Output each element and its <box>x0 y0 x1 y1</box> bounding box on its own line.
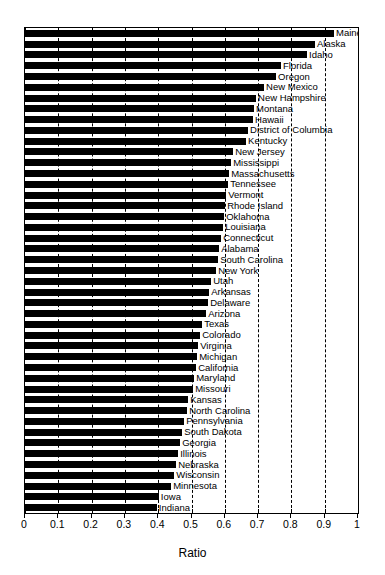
bar <box>25 332 200 339</box>
bar-label: Missouri <box>193 384 230 394</box>
bar <box>25 138 246 145</box>
bar-row: New York <box>25 267 358 274</box>
bar-row: Mississippi <box>25 159 358 166</box>
bar-label: Delaware <box>208 298 250 308</box>
bar <box>25 386 193 393</box>
bar-label: Alaska <box>315 39 346 49</box>
bar-row: District of Columbia <box>25 127 358 134</box>
bar-label: Oklahoma <box>224 212 269 222</box>
bar-label: Rhode Island <box>225 201 283 211</box>
bar-row: Alabama <box>25 245 358 252</box>
bar-row: Louisiana <box>25 224 358 231</box>
bar-row: Vermont <box>25 192 358 199</box>
bar-label: Texas <box>202 320 229 330</box>
bar-label: Louisiana <box>223 223 266 233</box>
bar <box>25 375 194 382</box>
bar <box>25 504 157 511</box>
bar-label: Iowa <box>159 492 181 502</box>
bar-row: Tennessee <box>25 181 358 188</box>
plot-inner: MaineAlaskaIdahoFloridaOregonNew MexicoN… <box>25 28 358 513</box>
bar-label: Tennessee <box>228 180 276 190</box>
bar-row: Oklahoma <box>25 213 358 220</box>
bar-row: Rhode Island <box>25 202 358 209</box>
bar <box>25 224 223 231</box>
bar-row: South Dakota <box>25 429 358 436</box>
bar-label: California <box>196 363 238 373</box>
bar <box>25 364 196 371</box>
bar-row: Illinois <box>25 450 358 457</box>
bar-label: Michigan <box>197 352 237 362</box>
bar-row: New Mexico <box>25 84 358 91</box>
bar <box>25 159 231 166</box>
bar-row: Connecticut <box>25 235 358 242</box>
bar <box>25 310 206 317</box>
bar-label: Oregon <box>276 72 310 82</box>
bar <box>25 105 254 112</box>
x-tick-label: 0.4 <box>150 519 165 530</box>
bar-label: Pennsylvania <box>184 417 243 427</box>
bar <box>25 41 315 48</box>
x-tick-label: 0.6 <box>216 519 231 530</box>
bar-label: Montana <box>254 104 293 114</box>
bar <box>25 472 174 479</box>
bar <box>25 493 159 500</box>
x-tick-label: 0.1 <box>50 519 65 530</box>
bar-label: New Hampshire <box>256 93 326 103</box>
bar <box>25 342 198 349</box>
bar <box>25 450 178 457</box>
bar-label: Colorado <box>200 330 241 340</box>
bar-label: New York <box>216 266 258 276</box>
bar <box>25 127 248 134</box>
bar-row: Texas <box>25 321 358 328</box>
bar-label: Maine <box>334 29 358 39</box>
bar <box>25 439 180 446</box>
bar-row: Massachusetts <box>25 170 358 177</box>
x-tick-label: 0.2 <box>83 519 98 530</box>
bar-label: New Mexico <box>264 83 318 93</box>
bar <box>25 202 225 209</box>
bar-row: Arkansas <box>25 289 358 296</box>
bar <box>25 192 226 199</box>
bar-row: Pennsylvania <box>25 418 358 425</box>
x-tick-label: 0.9 <box>316 519 331 530</box>
bar <box>25 245 219 252</box>
bar-row: New Hampshire <box>25 95 358 102</box>
bar-label: Arkansas <box>209 287 251 297</box>
bar <box>25 95 256 102</box>
bar-row: Georgia <box>25 439 358 446</box>
bar-label: Florida <box>281 61 312 71</box>
bar-label: Alabama <box>219 244 259 254</box>
bar-label: Maryland <box>194 374 235 384</box>
bar-row: Kentucky <box>25 138 358 145</box>
bar <box>25 461 176 468</box>
bar-row: Arizona <box>25 310 358 317</box>
bar <box>25 181 228 188</box>
bar-row: Iowa <box>25 493 358 500</box>
bar <box>25 299 208 306</box>
bar-row: Oregon <box>25 73 358 80</box>
bar-label: Georgia <box>180 438 216 448</box>
bar-label: Wisconsin <box>174 471 219 481</box>
bar-label: Minnesota <box>171 481 217 491</box>
bar-label: District of Columbia <box>248 126 332 136</box>
bar-row: Utah <box>25 278 358 285</box>
bar <box>25 256 218 263</box>
bar-label: Massachusetts <box>229 169 294 179</box>
bar <box>25 30 334 37</box>
bar <box>25 353 197 360</box>
bar-label: North Carolina <box>187 406 250 416</box>
bar-row: Virginia <box>25 342 358 349</box>
bar <box>25 483 171 490</box>
bar-label: Hawaii <box>253 115 284 125</box>
x-tick-label: 0.8 <box>283 519 298 530</box>
bar-row: Maryland <box>25 375 358 382</box>
bar-label: Virginia <box>198 341 232 351</box>
x-axis-title: Ratio <box>0 546 385 560</box>
bar <box>25 418 184 425</box>
x-tick-label: 1 <box>354 519 360 530</box>
bar-label: South Dakota <box>182 427 242 437</box>
bar <box>25 73 276 80</box>
bar <box>25 148 233 155</box>
bar-row: Maine <box>25 30 358 37</box>
bar-row: Hawaii <box>25 116 358 123</box>
